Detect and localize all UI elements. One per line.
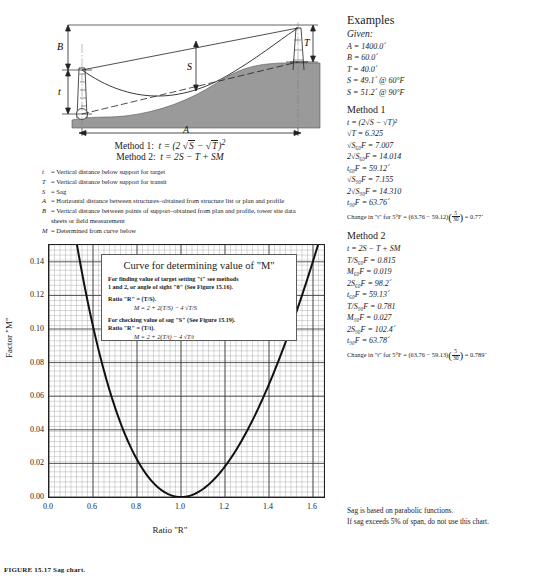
method1-heading: Method 1 (347, 105, 537, 115)
method2-change-line: Change in "t" for 5°F = (63.76 − 59.13)(… (347, 349, 537, 362)
definition-text: = Vertical distance below support for tr… (51, 178, 167, 185)
curve-box-ratio1: Ratio "R" = (T/S). (108, 295, 290, 303)
sag-chart-page: B t T S A (0, 0, 537, 579)
definition-item: sheets or field measurement (42, 216, 342, 226)
chart-y-tick-label: 0.06 (14, 391, 44, 400)
method1-change-prefix: Change in "t" for 5°F = (63.76 − 59.12) (347, 212, 448, 219)
definition-symbol: t (42, 167, 51, 177)
definition-text: sheets or field measurement (51, 217, 125, 224)
method2-row: M₉₀F = 0.027 (347, 314, 537, 322)
given-label: Given: (347, 30, 537, 40)
method1-row: √S₉₀F = 7.155 (347, 176, 537, 184)
curve-description-box: Curve for determining value of "M" For f… (101, 254, 297, 341)
dimension-t (66, 70, 71, 114)
definition-text: = Determined from curve below (51, 227, 136, 234)
chart-y-tick-label: 0.14 (14, 256, 44, 265)
label-A: A (183, 124, 189, 135)
definition-item: t= Vertical distance below support for t… (42, 167, 342, 177)
span-profile-diagram: B t T S (0, 0, 340, 136)
curve-box-line2: 1 and 2, or angle of sight "θ" (See Figu… (108, 283, 290, 291)
definitions-list: t= Vertical distance below support for t… (42, 167, 342, 235)
dimension-A (79, 128, 301, 136)
definition-symbol: S (42, 187, 51, 197)
method1-row: √T = 6.325 (347, 130, 537, 138)
chart-x-tick-label: 1.0 (175, 502, 185, 511)
sag-note: Sag is based on parabolic functions. If … (347, 506, 537, 527)
label-T: T (304, 37, 311, 48)
chart-y-axis-ticks: 0.000.020.040.060.080.100.120.14 (10, 240, 44, 498)
curve-box-formula2: M = 2 + 2(T/t) − 4 √T/t (134, 333, 290, 342)
method2-formula: t = 2S − T + SM (347, 245, 537, 253)
chart-x-tick-label: 1.4 (263, 502, 273, 511)
chart-y-tick-label: 0.12 (14, 290, 44, 299)
figure-caption: FIGURE 15.17 Sag chart. (4, 566, 404, 578)
method2-row: T/S₆₀F = 0.815 (347, 257, 537, 265)
method2-change-fraction: 530 (452, 349, 460, 362)
examples-panel: Examples Given: A = 1400.0´ B = 60.0´ T … (347, 14, 537, 361)
definition-symbol: M (42, 226, 51, 236)
definition-text: = Horizontal distance between structures… (51, 197, 284, 204)
chart-x-tick-label: 0.8 (131, 502, 141, 511)
definition-text: = Vertical distance between points of su… (51, 207, 296, 214)
definition-item: T= Vertical distance below support for t… (42, 177, 342, 187)
definition-item: A= Horizontal distance between structure… (42, 196, 342, 206)
method1-row: 2√S₉₀F = 14.310 (347, 188, 537, 196)
method2-heading: Method 2 (347, 231, 537, 241)
method1-formula: t = (2√S − √T)² (347, 119, 537, 127)
chart-y-tick-label: 0.00 (14, 492, 44, 501)
chart-x-axis-label: Ratio "R" (10, 525, 330, 535)
method2-change-result: = 0.789´ (465, 351, 487, 358)
definition-text: = Sag (51, 188, 66, 195)
chart-x-tick-label: 0.0 (43, 502, 53, 511)
method1-change-result: = 0.77´ (465, 212, 484, 219)
chart-plot-area: Curve for determining value of "M" For f… (48, 244, 325, 498)
chart-x-tick-label: 1.6 (307, 502, 317, 511)
method1-row: 2√S₆₀F = 14.014 (347, 153, 537, 161)
method1-change-fraction: 530 (452, 211, 460, 224)
curve-box-ratio2: Ratio "R" = (T/t). (108, 324, 290, 332)
label-t: t (58, 86, 61, 97)
method-2-formula: Method 2: t = 2S − T + SM (0, 152, 340, 162)
m-factor-chart: Factor "M" 0.000.020.040.060.080.100.120… (10, 240, 330, 540)
method2-row: T/S₉₀F = 0.781 (347, 303, 537, 311)
method2-row: t₆₀F = 59.13´ (347, 291, 537, 299)
definition-text: = Vertical distance below support for ta… (51, 168, 165, 175)
given-value: S = 49.1´ @ 60°F (347, 77, 537, 85)
examples-heading: Examples (347, 14, 537, 26)
given-value: S = 51.2´ @ 90°F (347, 89, 537, 97)
method2-row: 2S₆₀F = 98.2´ (347, 280, 537, 288)
method-1-formula: Method 1: t = (2 √S − √T)2 (0, 138, 340, 151)
sag-note-line1: Sag is based on parabolic functions. (347, 506, 537, 517)
chart-y-tick-label: 0.08 (14, 357, 44, 366)
dimension-T (311, 25, 316, 62)
chart-y-tick-label: 0.10 (14, 324, 44, 333)
curve-box-formula1: M = 2 + 2(T/S) − 4 √T/S (134, 304, 290, 313)
method1-row: t₆₀F = 59.12´ (347, 165, 537, 173)
label-B: B (57, 41, 63, 52)
method1-row: √S₆₀F = 7.007 (347, 142, 537, 150)
definition-item: B= Vertical distance between points of s… (42, 206, 342, 216)
dimension-B (66, 25, 71, 70)
method1-change-line: Change in "t" for 5°F = (63.76 − 59.12)(… (347, 211, 537, 224)
chart-x-tick-label: 0.6 (87, 502, 97, 511)
curve-box-line1: For finding value of target setting "t" … (108, 275, 290, 283)
method2-row: 2S₉₀F = 102.4´ (347, 326, 537, 334)
given-value: B = 60.0´ (347, 54, 537, 62)
chart-x-tick-label: 1.2 (219, 502, 229, 511)
method2-row: M₆₀F = 0.019 (347, 268, 537, 276)
label-S: S (187, 61, 192, 72)
method2-change-prefix: Change in "t" for 5°F = (63.76 − 59.13) (347, 351, 448, 358)
curve-box-line3: For checking value of sag "S" (See Figur… (108, 316, 290, 324)
given-value: A = 1400.0´ (347, 43, 537, 51)
definition-item: S= Sag (42, 187, 342, 197)
given-value: T = 40.0´ (347, 66, 537, 74)
method1-row: t₉₀F = 63.76´ (347, 199, 537, 207)
definition-symbol: A (42, 196, 51, 206)
definition-symbol: T (42, 177, 51, 187)
method2-row: t₉₀F = 63.78´ (347, 337, 537, 345)
curve-box-title: Curve for determining value of "M" (108, 260, 290, 271)
chart-y-tick-label: 0.04 (14, 424, 44, 433)
definition-symbol: B (42, 206, 51, 216)
sag-note-line2: If sag exceeds 5% of span, do not use th… (347, 517, 537, 528)
chart-y-tick-label: 0.02 (14, 458, 44, 467)
